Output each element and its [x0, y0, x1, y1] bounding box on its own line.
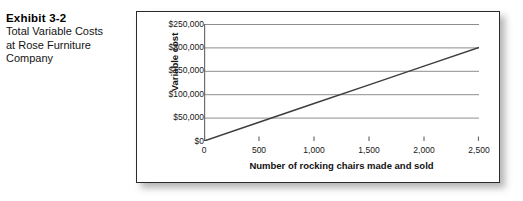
x-axis-tick-label: 1,500	[358, 145, 379, 155]
x-axis-tick-label: 2,500	[468, 145, 489, 155]
plot-area	[204, 24, 479, 141]
exhibit-number: Exhibit 3-2	[6, 11, 126, 25]
x-axis-tick-labels: 05001,0001,5002,0002,500	[204, 145, 479, 157]
y-axis-tick-label: $100,000	[169, 90, 204, 99]
y-axis-tick-label: $200,000	[169, 43, 204, 52]
y-axis-tick-label: $250,000	[169, 20, 204, 29]
plot-svg	[204, 24, 479, 141]
exhibit-caption: Exhibit 3-2 Total Variable Costs at Rose…	[6, 11, 126, 66]
x-axis-title: Number of rocking chairs made and sold	[204, 160, 479, 171]
exhibit-caption-line-1: Total Variable Costs	[6, 25, 126, 39]
exhibit-caption-line-2: at Rose Furniture	[6, 39, 126, 53]
x-axis-tick-label: 1,000	[303, 145, 324, 155]
x-axis-tick-label: 0	[202, 145, 207, 155]
exhibit-panel: Variable cost $0$50,000$100,000$150,000$…	[136, 11, 500, 183]
x-axis-tick-label: 2,000	[413, 145, 434, 155]
x-axis-tick-label: 500	[252, 145, 266, 155]
exhibit-caption-line-3: Company	[6, 52, 126, 66]
y-axis-tick-label: $150,000	[169, 66, 204, 75]
variable-cost-line-chart: Variable cost $0$50,000$100,000$150,000$…	[137, 12, 501, 184]
y-axis-tick-label: $50,000	[173, 113, 204, 122]
